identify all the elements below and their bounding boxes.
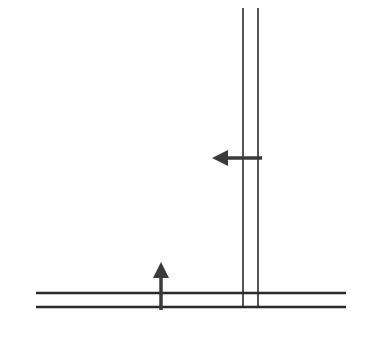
left-arrow-head — [212, 150, 228, 166]
up-arrow-head — [153, 262, 169, 278]
diagram-svg — [0, 0, 372, 343]
diagram-canvas — [0, 0, 372, 343]
horizontal-lines-group — [36, 293, 346, 307]
left-arrow-icon — [212, 150, 262, 166]
up-arrow-icon — [153, 262, 169, 310]
arrows-group — [153, 150, 262, 310]
